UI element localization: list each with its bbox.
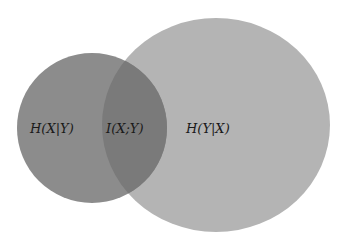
label-h-y-given-x: H(Y|X): [185, 121, 230, 136]
label-mutual-information: I(X;Y): [105, 121, 144, 136]
venn-svg: H(X|Y) I(X;Y) H(Y|X): [0, 0, 345, 246]
venn-diagram: H(X|Y) I(X;Y) H(Y|X): [0, 0, 345, 246]
label-h-x-given-y: H(X|Y): [29, 121, 74, 136]
